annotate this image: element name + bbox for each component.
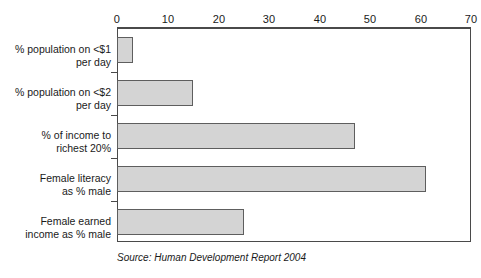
y-tick-mark-2 xyxy=(111,115,117,116)
category-label-pop-under-1-dollar: % population on <$1 per day xyxy=(0,43,111,69)
category-label-income-richest-20: % of income to richest 20% xyxy=(0,129,111,155)
x-axis-tick-labels: 0 10 20 30 40 50 60 70 xyxy=(0,13,481,27)
x-tick-label-60: 60 xyxy=(415,13,428,25)
bar-pop-under-1-dollar xyxy=(117,37,133,63)
x-tick-label-50: 50 xyxy=(364,13,377,25)
category-label-pop-under-2-dollar: % population on <$2 per day xyxy=(0,86,111,112)
bar-female-literacy xyxy=(117,166,426,192)
y-tick-mark-3 xyxy=(111,158,117,159)
x-tick-label-70: 70 xyxy=(465,13,478,25)
category-label-female-earned-income: Female earned income as % male xyxy=(0,215,111,241)
y-tick-mark-4 xyxy=(111,201,117,202)
x-tick-label-40: 40 xyxy=(314,13,327,25)
bar-income-richest-20 xyxy=(117,123,355,149)
x-tick-label-10: 10 xyxy=(162,13,175,25)
x-tick-label-0: 0 xyxy=(114,13,120,25)
bar-female-earned-income xyxy=(117,209,244,235)
bar-chart: 0 10 20 30 40 50 60 70 % population on <… xyxy=(0,0,481,278)
y-tick-mark-1 xyxy=(111,72,117,73)
category-label-female-literacy: Female literacy as % male xyxy=(0,172,111,198)
source-caption: Source: Human Development Report 2004 xyxy=(117,252,306,264)
x-tick-label-20: 20 xyxy=(213,13,226,25)
bar-pop-under-2-dollar xyxy=(117,80,193,106)
x-tick-label-30: 30 xyxy=(263,13,276,25)
